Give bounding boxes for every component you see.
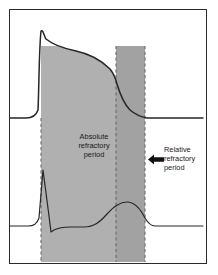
figure-root: Absolute refractory period Relative refr…	[0, 0, 218, 275]
caption-strip	[9, 266, 207, 275]
absolute-refractory-line-1: Absolute	[64, 132, 124, 141]
absolute-refractory-period-label: Absolute refractory period	[64, 132, 124, 160]
top-panel-white-mask-right	[145, 10, 205, 120]
left-arrow-icon	[148, 154, 164, 165]
relative-refractory-line-1: Relative	[164, 145, 207, 154]
top-panel-white-mask-left	[10, 10, 41, 120]
bottom-panel-white-right	[145, 168, 205, 262]
figure-frame: Absolute refractory period Relative refr…	[9, 9, 207, 264]
absolute-refractory-line-2: refractory	[64, 141, 124, 150]
absolute-refractory-line-3: period	[64, 150, 124, 159]
inter-panel-white-gap-left	[10, 120, 41, 168]
relative-refractory-line-3: period	[164, 163, 207, 172]
relative-refractory-line-2: refractory	[164, 154, 207, 163]
bottom-panel-white-left	[10, 168, 41, 262]
relative-refractory-period-label: Relative refractory period	[164, 145, 207, 173]
